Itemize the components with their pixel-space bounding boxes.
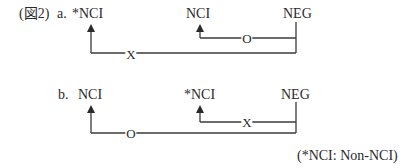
diagram-b-lines (87, 102, 296, 133)
a-mid-node: NCI (186, 7, 210, 21)
footnote: (*NCI: Non-NCI) (297, 149, 398, 163)
b-mid-arrowhead-icon (196, 105, 204, 113)
b-mid-node: *NCI (184, 88, 215, 102)
figure-label: (図2) (19, 7, 49, 21)
b-left-arrowhead-icon (87, 105, 95, 113)
a-left-node: *NCI (72, 7, 103, 21)
b-outer-mark: O (125, 127, 136, 140)
diagram-a-letter: a. (57, 7, 67, 21)
b-inner-mark: X (241, 116, 252, 129)
diagram-a-lines (87, 22, 296, 53)
b-right-node: NEG (281, 88, 310, 102)
b-left-node: NCI (78, 88, 102, 102)
diagram-b-letter: b. (58, 88, 69, 102)
figure-canvas: (図2) a. *NCI NCI NEG X O b. NCI *NCI NEG… (0, 0, 415, 168)
a-inner-mark: O (241, 32, 252, 45)
a-mid-arrowhead-icon (196, 24, 204, 32)
a-right-node: NEG (283, 7, 312, 21)
a-left-arrowhead-icon (87, 24, 95, 32)
connector-lines (0, 0, 415, 168)
a-outer-mark: X (125, 48, 136, 61)
